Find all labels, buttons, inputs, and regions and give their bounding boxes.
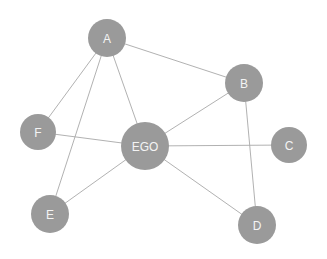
node-label: B xyxy=(240,77,248,91)
nodes-layer: ABEGOFCDE xyxy=(20,19,307,244)
node-label: EGO xyxy=(132,140,159,154)
node-label: A xyxy=(103,32,111,46)
node-label: C xyxy=(285,139,294,153)
edge-b-d xyxy=(244,83,257,225)
node-a: A xyxy=(88,19,126,57)
node-ego: EGO xyxy=(121,122,169,170)
node-c: C xyxy=(271,127,307,163)
edge-a-b xyxy=(107,38,244,83)
network-graph: ABEGOFCDE xyxy=(0,0,327,259)
ego-network-diagram: ABEGOFCDE xyxy=(0,0,327,259)
node-label: E xyxy=(46,208,54,222)
node-label: D xyxy=(253,219,262,233)
edge-a-e xyxy=(50,38,107,214)
node-b: B xyxy=(225,64,263,102)
node-f: F xyxy=(20,114,56,150)
node-label: F xyxy=(34,126,41,140)
node-d: D xyxy=(238,206,276,244)
node-e: E xyxy=(31,195,69,233)
